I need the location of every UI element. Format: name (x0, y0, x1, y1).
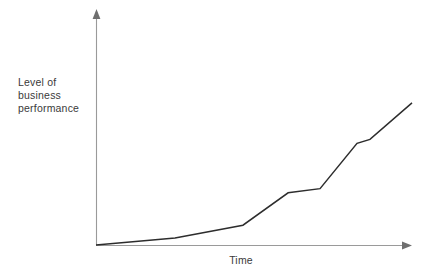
y-axis-arrow-icon (93, 9, 101, 19)
x-axis-arrow-icon (402, 242, 412, 250)
performance-trend-line (96, 103, 412, 245)
line-chart (0, 0, 422, 277)
figure-root: Level of business performance Time (0, 0, 422, 277)
y-axis-label: Level of business performance (18, 76, 96, 116)
x-axis-label: Time (96, 254, 386, 266)
